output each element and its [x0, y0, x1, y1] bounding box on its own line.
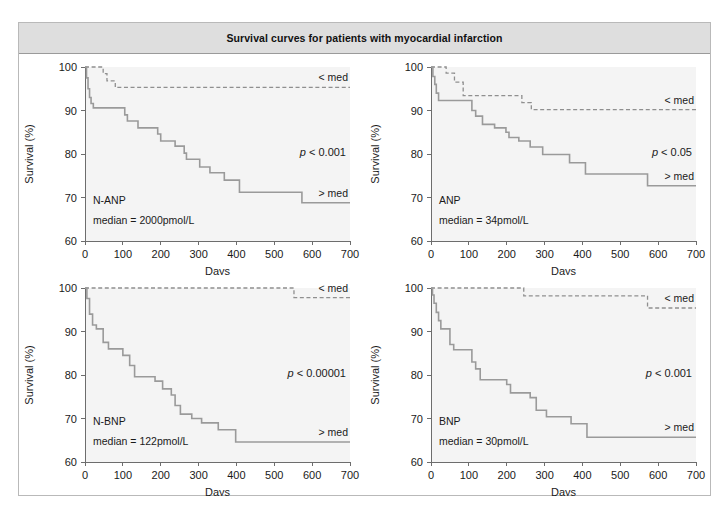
x-tick-label: 100	[459, 248, 477, 260]
label-below-median: < med	[664, 94, 694, 106]
label-below-median: < med	[319, 281, 349, 293]
y-tick-label: 70	[65, 412, 77, 424]
y-axis-title: Survival (%)	[369, 345, 381, 404]
y-tick-label: 100	[404, 282, 422, 294]
x-tick-label: 400	[227, 469, 245, 481]
x-tick-label: 600	[648, 469, 666, 481]
x-tick-label: 700	[686, 469, 704, 481]
y-tick-label: 80	[410, 369, 422, 381]
x-tick-label: 500	[611, 248, 629, 260]
marker-name: ANP	[439, 194, 461, 206]
x-tick-label: 700	[341, 469, 359, 481]
panel-bnp: 607080901000100200300400500600700DaysSur…	[365, 276, 711, 497]
x-tick-label: 600	[303, 469, 321, 481]
x-tick-label: 300	[535, 248, 553, 260]
x-axis-title: Days	[550, 486, 576, 496]
label-below-median: < med	[319, 71, 349, 83]
y-axis-title: Survival (%)	[23, 345, 35, 404]
x-tick-label: 300	[535, 469, 553, 481]
x-axis-title: Days	[205, 486, 231, 496]
x-tick-label: 700	[341, 248, 359, 260]
x-tick-label: 100	[459, 469, 477, 481]
x-tick-label: 0	[427, 469, 433, 481]
y-tick-label: 90	[410, 105, 422, 117]
x-tick-label: 700	[686, 248, 704, 260]
y-tick-label: 80	[65, 148, 77, 160]
x-tick-label: 500	[611, 469, 629, 481]
p-value-annotation: p < 0.00001	[287, 367, 346, 379]
y-tick-label: 70	[65, 192, 77, 204]
y-tick-label: 90	[65, 105, 77, 117]
panel-anp: 607080901000100200300400500600700DaysSur…	[365, 55, 711, 276]
y-tick-label: 60	[410, 235, 422, 247]
marker-median: median = 122pmol/L	[93, 434, 189, 446]
marker-median: median = 30pmol/L	[439, 434, 529, 446]
x-tick-label: 200	[497, 248, 515, 260]
x-tick-label: 500	[265, 248, 283, 260]
y-tick-label: 100	[404, 61, 422, 73]
y-tick-label: 60	[65, 235, 77, 247]
x-tick-label: 400	[573, 248, 591, 260]
y-axis-title: Survival (%)	[369, 124, 381, 183]
marker-name: N-ANP	[93, 194, 126, 206]
label-above-median: > med	[319, 425, 349, 437]
y-tick-label: 60	[65, 456, 77, 468]
y-tick-label: 100	[59, 282, 77, 294]
y-tick-label: 80	[410, 148, 422, 160]
p-value-annotation: p < 0.001	[299, 146, 346, 158]
x-axis-title: Days	[205, 265, 231, 275]
x-tick-label: 400	[227, 248, 245, 260]
figure-title-bar: Survival curves for patients with myocar…	[19, 23, 710, 54]
x-tick-label: 100	[114, 248, 132, 260]
label-above-median: > med	[319, 187, 349, 199]
panel-n-bnp: 607080901000100200300400500600700DaysSur…	[19, 276, 365, 497]
y-tick-label: 60	[410, 456, 422, 468]
label-above-median: > med	[664, 421, 694, 433]
x-tick-label: 600	[648, 248, 666, 260]
panel-grid: 607080901000100200300400500600700DaysSur…	[19, 55, 710, 496]
y-tick-label: 70	[410, 192, 422, 204]
panel-n-anp: 607080901000100200300400500600700DaysSur…	[19, 55, 365, 276]
label-below-median: < med	[664, 292, 694, 304]
y-axis-title: Survival (%)	[23, 124, 35, 183]
x-tick-label: 200	[152, 469, 170, 481]
y-tick-label: 90	[65, 325, 77, 337]
figure-container: Survival curves for patients with myocar…	[18, 22, 711, 496]
label-above-median: > med	[664, 170, 694, 182]
x-tick-label: 0	[427, 248, 433, 260]
x-tick-label: 200	[497, 469, 515, 481]
x-tick-label: 100	[114, 469, 132, 481]
y-tick-label: 90	[410, 325, 422, 337]
marker-median: median = 34pmol/L	[439, 214, 529, 226]
x-tick-label: 0	[82, 469, 88, 481]
marker-median: median = 2000pmol/L	[93, 214, 194, 226]
y-tick-label: 70	[410, 412, 422, 424]
p-value-annotation: p < 0.001	[644, 367, 691, 379]
p-value-annotation: p < 0.05	[650, 146, 691, 158]
x-tick-label: 0	[82, 248, 88, 260]
y-tick-label: 80	[65, 369, 77, 381]
marker-name: BNP	[439, 415, 461, 427]
x-tick-label: 400	[573, 469, 591, 481]
x-tick-label: 300	[189, 469, 207, 481]
x-tick-label: 200	[152, 248, 170, 260]
x-tick-label: 300	[189, 248, 207, 260]
x-tick-label: 600	[303, 248, 321, 260]
marker-name: N-BNP	[93, 415, 126, 427]
x-axis-title: Days	[550, 265, 576, 275]
y-tick-label: 100	[59, 61, 77, 73]
figure-title: Survival curves for patients with myocar…	[226, 32, 502, 44]
x-tick-label: 500	[265, 469, 283, 481]
